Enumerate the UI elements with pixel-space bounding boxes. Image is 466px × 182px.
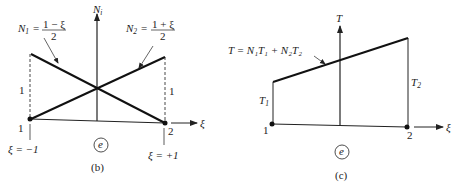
ni-axis-label: Ni: [92, 3, 102, 17]
n2-formula: N2 = 1 + ξ 2: [125, 18, 175, 42]
node-1-dot-c: [270, 122, 275, 127]
svg-text:2: 2: [51, 30, 57, 42]
t-pointer: [314, 56, 325, 64]
node-2-label: 2: [168, 125, 174, 137]
node-2-label-c: 2: [407, 129, 413, 141]
node-1-dot: [28, 117, 33, 122]
t2-label: T2: [411, 76, 421, 90]
svg-text:=: =: [141, 22, 147, 34]
svg-text:N2: N2: [125, 22, 137, 36]
n1-formula: N1 = 1 − ξ 2: [17, 18, 66, 42]
panel-b: Ni ξ N1 = 1 − ξ 2 N2 = 1 + ξ 2 1 1 1 2 ξ…: [8, 3, 205, 174]
svg-text:=: =: [33, 22, 39, 34]
shape-function-diagram: Ni ξ N1 = 1 − ξ 2 N2 = 1 + ξ 2 1 1 1 2 ξ…: [0, 0, 466, 182]
t-equation-label: T = N₁T₁ + N₂T₂: [228, 44, 302, 56]
left-height-label: 1: [19, 84, 25, 96]
xi-axis-label: ξ: [200, 117, 205, 130]
caption-c: (c): [335, 169, 348, 182]
t1-label: T1: [259, 94, 269, 108]
t-axis-label: T: [336, 12, 343, 24]
xi-plus-one-label: ξ = +1: [148, 149, 179, 162]
svg-text:2: 2: [160, 30, 166, 42]
xi-axis-label-c: ξ: [446, 121, 451, 134]
element-label: e: [98, 138, 103, 150]
n2-line: [31, 57, 165, 119]
svg-text:N1: N1: [17, 22, 29, 36]
panel-c: T ξ T = N₁T₁ + N₂T₂ T1 T2 1 2 e (c): [228, 12, 451, 182]
element-label-c: e: [339, 145, 344, 157]
caption-b: (b): [91, 161, 104, 174]
xi-minus-one-label: ξ = −1: [8, 143, 39, 156]
node-1-label: 1: [18, 122, 24, 134]
node-2-dot: [163, 121, 168, 126]
node-1-label-c: 1: [263, 124, 269, 136]
right-height-label: 1: [169, 85, 175, 97]
